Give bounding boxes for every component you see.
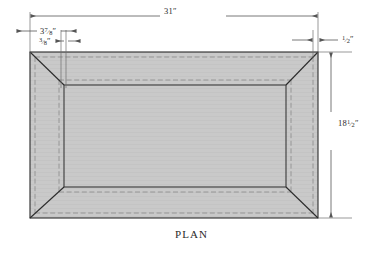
drawing-caption: PLAN bbox=[0, 228, 383, 240]
dim-38-fraction: 3⁄8 bbox=[39, 38, 47, 45]
dim-half-fraction: 1⁄2 bbox=[342, 36, 350, 43]
dimension-label-edge-offset: 1⁄2″ bbox=[342, 34, 354, 44]
plan-view-drawing bbox=[0, 0, 383, 253]
dim-1812-denominator: 2 bbox=[352, 121, 355, 128]
dim-378-unit: ″ bbox=[53, 26, 57, 36]
technical-drawing-page: 31″ 37⁄8″ 3⁄8″ 1⁄2″ 181⁄2″ PLAN bbox=[0, 0, 383, 253]
dim-38-unit: ″ bbox=[47, 36, 51, 46]
dim-1812-unit: ″ bbox=[355, 118, 359, 128]
dim-half-denominator: 2 bbox=[347, 37, 350, 44]
dim-378-fraction: 7⁄8 bbox=[44, 28, 52, 35]
frame-body bbox=[30, 52, 318, 218]
dim-half-unit: ″ bbox=[350, 34, 354, 44]
dim-1812-fraction: 1⁄2 bbox=[347, 120, 355, 127]
dimension-label-overall-depth: 181⁄2″ bbox=[338, 118, 359, 128]
frame-fill bbox=[30, 52, 318, 218]
dimension-label-rail-thickness: 3⁄8″ bbox=[39, 36, 51, 46]
dim-1812-whole: 18 bbox=[338, 118, 347, 128]
dim-378-denominator: 8 bbox=[49, 29, 52, 36]
dimension-label-overall-width: 31″ bbox=[164, 6, 177, 16]
dimension-label-corner-offset: 37⁄8″ bbox=[40, 26, 56, 36]
dim-38-denominator: 8 bbox=[44, 39, 47, 46]
